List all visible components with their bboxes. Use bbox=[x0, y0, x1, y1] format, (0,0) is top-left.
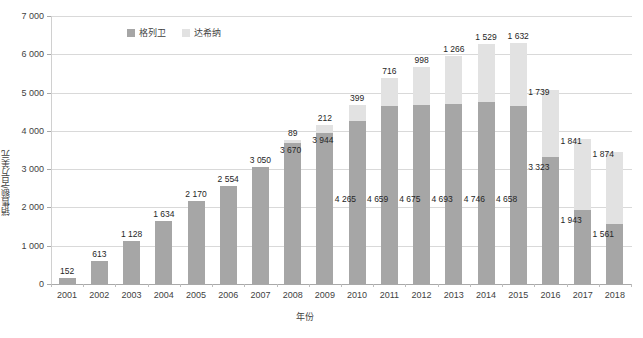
bar-segment-lower[interactable] bbox=[316, 133, 333, 284]
x-axis-tick-label: 2008 bbox=[276, 290, 310, 300]
x-axis-tick-mark bbox=[51, 284, 52, 287]
x-axis-tick-label: 2015 bbox=[501, 290, 535, 300]
bar-segment-upper[interactable] bbox=[413, 67, 430, 105]
legend-item-0[interactable]: 格列卫 bbox=[127, 26, 166, 39]
bar[interactable] bbox=[445, 56, 462, 284]
bar[interactable] bbox=[606, 152, 623, 284]
data-label-lower: 3 050 bbox=[244, 155, 276, 165]
x-axis-tick-label: 2016 bbox=[533, 290, 567, 300]
x-axis-tick-label: 2010 bbox=[340, 290, 374, 300]
y-axis-tick-mark bbox=[47, 16, 51, 17]
bar-segment-upper[interactable] bbox=[316, 125, 333, 133]
legend-item-1[interactable]: 达希纳 bbox=[182, 26, 221, 39]
x-axis-tick-label: 2007 bbox=[243, 290, 277, 300]
data-label-upper: 1 266 bbox=[436, 44, 472, 54]
data-label-upper: 1 874 bbox=[584, 149, 614, 159]
legend-swatch-icon bbox=[182, 29, 190, 37]
y-axis-tick-mark bbox=[47, 169, 51, 170]
bar[interactable] bbox=[381, 78, 398, 284]
data-label-lower: 4 746 bbox=[455, 194, 485, 204]
bar-segment-upper[interactable] bbox=[349, 105, 366, 120]
x-axis-tick-label: 2014 bbox=[469, 290, 503, 300]
data-label-lower: 613 bbox=[83, 249, 115, 259]
bar-segment-lower[interactable] bbox=[91, 261, 108, 284]
x-axis-tick-label: 2013 bbox=[437, 290, 471, 300]
x-axis-tick-label: 2009 bbox=[308, 290, 342, 300]
x-axis-tick-mark bbox=[567, 284, 568, 287]
bar-segment-lower[interactable] bbox=[59, 278, 76, 284]
x-axis-tick-mark bbox=[502, 284, 503, 287]
stacked-bar-chart: 7 0006 0005 0004 0003 0002 0001 0000 销售额… bbox=[0, 0, 643, 338]
bar-segment-upper[interactable] bbox=[445, 56, 462, 104]
data-label-lower: 2 554 bbox=[212, 174, 244, 184]
x-axis-tick-label: 2006 bbox=[211, 290, 245, 300]
x-axis-tick-mark bbox=[599, 284, 600, 287]
x-axis-tick-mark bbox=[438, 284, 439, 287]
data-label-lower: 1 561 bbox=[584, 229, 614, 239]
data-label-lower: 4 659 bbox=[358, 194, 388, 204]
bar[interactable] bbox=[478, 44, 495, 284]
bar-segment-upper[interactable] bbox=[606, 152, 623, 224]
data-label-lower: 1 943 bbox=[552, 215, 582, 225]
bar[interactable] bbox=[59, 278, 76, 284]
x-axis-tick-mark bbox=[212, 284, 213, 287]
y-axis-tick-label: 5 000 bbox=[0, 88, 44, 98]
bar-segment-lower[interactable] bbox=[123, 241, 140, 284]
data-label-upper: 1 632 bbox=[500, 31, 536, 41]
data-label-lower: 3 944 bbox=[307, 135, 339, 145]
x-axis-tick-mark bbox=[148, 284, 149, 287]
y-axis-tick-mark bbox=[47, 246, 51, 247]
x-axis-tick-mark bbox=[180, 284, 181, 287]
x-axis-tick-mark bbox=[341, 284, 342, 287]
data-label-lower: 4 265 bbox=[326, 194, 356, 204]
data-label-upper: 89 bbox=[275, 128, 311, 138]
data-label-lower: 1 128 bbox=[116, 229, 148, 239]
data-label-lower: 4 693 bbox=[423, 194, 453, 204]
x-axis-tick-mark bbox=[534, 284, 535, 287]
x-axis-tick-label: 2004 bbox=[147, 290, 181, 300]
bar[interactable] bbox=[413, 67, 430, 284]
x-axis-tick-mark bbox=[115, 284, 116, 287]
bar-segment-lower[interactable] bbox=[155, 221, 172, 284]
legend: 格列卫 达希纳 bbox=[127, 26, 221, 39]
x-axis-tick-label: 2018 bbox=[598, 290, 632, 300]
bar-segment-upper[interactable] bbox=[542, 90, 559, 157]
bar-segment-lower[interactable] bbox=[284, 143, 301, 284]
bar[interactable] bbox=[188, 201, 205, 284]
y-axis-tick-label: 0 bbox=[0, 279, 44, 289]
y-axis-tick-label: 6 000 bbox=[0, 49, 44, 59]
bar[interactable] bbox=[542, 90, 559, 284]
bar[interactable] bbox=[220, 186, 237, 284]
bar-segment-lower[interactable] bbox=[188, 201, 205, 284]
data-label-lower: 2 170 bbox=[180, 189, 212, 199]
legend-swatch-icon bbox=[127, 29, 135, 37]
data-label-upper: 1 529 bbox=[468, 32, 504, 42]
y-axis-tick-label: 7 000 bbox=[0, 11, 44, 21]
bar[interactable] bbox=[123, 241, 140, 284]
bar[interactable] bbox=[155, 221, 172, 284]
x-axis-tick-label: 2005 bbox=[179, 290, 213, 300]
bar[interactable] bbox=[284, 140, 301, 284]
x-axis-tick-mark bbox=[631, 284, 632, 287]
bar[interactable] bbox=[91, 261, 108, 284]
x-axis-tick-label: 2017 bbox=[566, 290, 600, 300]
data-label-lower: 4 658 bbox=[487, 194, 517, 204]
x-axis-tick-mark bbox=[405, 284, 406, 287]
x-axis-tick-label: 2011 bbox=[372, 290, 406, 300]
x-axis-tick-label: 2002 bbox=[82, 290, 116, 300]
bar-segment-lower[interactable] bbox=[220, 186, 237, 284]
bar[interactable] bbox=[574, 139, 591, 284]
x-axis-tick-mark bbox=[244, 284, 245, 287]
x-axis-tick-label: 2012 bbox=[405, 290, 439, 300]
bar-segment-upper[interactable] bbox=[478, 44, 495, 103]
y-axis-tick-label: 1 000 bbox=[0, 241, 44, 251]
x-axis-tick-mark bbox=[373, 284, 374, 287]
bar[interactable] bbox=[252, 167, 269, 284]
bar-segment-lower[interactable] bbox=[252, 167, 269, 284]
y-axis-title: 销售额/百万美元 bbox=[0, 150, 11, 216]
bar[interactable] bbox=[316, 125, 333, 284]
y-axis-tick-mark bbox=[47, 93, 51, 94]
x-axis-tick-mark bbox=[470, 284, 471, 287]
legend-label: 格列卫 bbox=[139, 26, 166, 39]
bar-segment-upper[interactable] bbox=[381, 78, 398, 105]
